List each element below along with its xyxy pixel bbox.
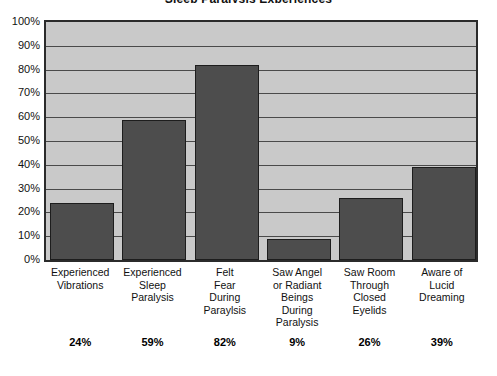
value-label-row: 24%59%82%9%26%39% <box>44 336 478 354</box>
gridline <box>46 165 476 166</box>
y-tick-label: 10% <box>0 230 40 241</box>
y-tick-label: 50% <box>0 135 40 146</box>
category-label-line: Experienced <box>44 266 116 279</box>
category-label-line: Aware of <box>406 266 478 279</box>
category-label-line: During <box>261 304 333 317</box>
gridline <box>46 46 476 47</box>
category-label-line: Fear <box>189 279 261 292</box>
category-label: Saw RoomThroughClosedEyelids <box>333 266 405 316</box>
category-label: Aware ofLucidDreaming <box>406 266 478 304</box>
category-label-line: During <box>189 291 261 304</box>
category-label-line: Vibrations <box>44 279 116 292</box>
gridline <box>46 117 476 118</box>
category-label-line: Paraylsis <box>189 304 261 317</box>
category-label: FeltFearDuringParaylsis <box>189 266 261 316</box>
category-label-line: Beings <box>261 291 333 304</box>
category-label-line: Lucid <box>406 279 478 292</box>
y-tick-label: 0% <box>0 254 40 265</box>
bar-chart: Sleep Paralysis Experiences 0%10%20%30%4… <box>0 0 497 376</box>
chart-title: Sleep Paralysis Experiences <box>0 0 497 3</box>
y-tick-label: 70% <box>0 87 40 98</box>
category-label-line: Saw Angel <box>261 266 333 279</box>
y-tick-label: 40% <box>0 159 40 170</box>
category-label-line: Paralysis <box>261 316 333 329</box>
category-label-line: Experienced <box>116 266 188 279</box>
y-tick-label: 60% <box>0 111 40 122</box>
category-label-line: Eyelids <box>333 304 405 317</box>
value-label: 9% <box>261 336 333 349</box>
value-label: 26% <box>333 336 405 349</box>
category-label-line: Saw Room <box>333 266 405 279</box>
y-axis: 0%10%20%30%40%50%60%70%80%90%100% <box>0 20 40 262</box>
y-tick-label: 80% <box>0 64 40 75</box>
value-label: 24% <box>44 336 116 349</box>
category-label-line: or Radiant <box>261 279 333 292</box>
y-tick-label: 100% <box>0 16 40 27</box>
y-tick-label: 20% <box>0 206 40 217</box>
value-label: 82% <box>189 336 261 349</box>
category-label-line: Felt <box>189 266 261 279</box>
category-label-line: Closed <box>333 291 405 304</box>
category-label-line: Sleep <box>116 279 188 292</box>
category-label: Saw Angelor RadiantBeingsDuringParalysis <box>261 266 333 329</box>
y-tick-label: 30% <box>0 183 40 194</box>
category-label-line: Dreaming <box>406 291 478 304</box>
gridline <box>46 93 476 94</box>
y-tick-label: 90% <box>0 40 40 51</box>
gridline <box>46 212 476 213</box>
value-label: 39% <box>406 336 478 349</box>
category-label-line: Paralysis <box>116 291 188 304</box>
category-label: ExperiencedVibrations <box>44 266 116 291</box>
plot-area <box>44 20 478 262</box>
gridline <box>46 236 476 237</box>
category-label: ExperiencedSleepParalysis <box>116 266 188 304</box>
gridline <box>46 141 476 142</box>
x-axis-category-labels: ExperiencedVibrationsExperiencedSleepPar… <box>44 266 478 328</box>
category-label-line: Through <box>333 279 405 292</box>
gridline <box>46 189 476 190</box>
value-label: 59% <box>116 336 188 349</box>
gridline <box>46 70 476 71</box>
